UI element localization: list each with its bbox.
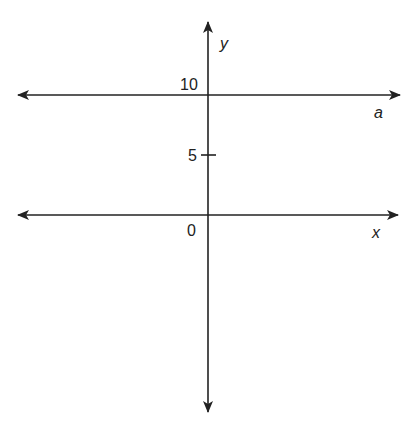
line-a-label: a bbox=[374, 104, 383, 121]
tick-label-10: 10 bbox=[180, 76, 198, 93]
x-axis-label: x bbox=[371, 224, 381, 241]
y-axis-label: y bbox=[219, 35, 229, 52]
tick-label-0: 0 bbox=[187, 222, 196, 239]
coordinate-plane: 10 5 0 y x a bbox=[0, 0, 412, 429]
tick-label-5: 5 bbox=[188, 147, 197, 164]
